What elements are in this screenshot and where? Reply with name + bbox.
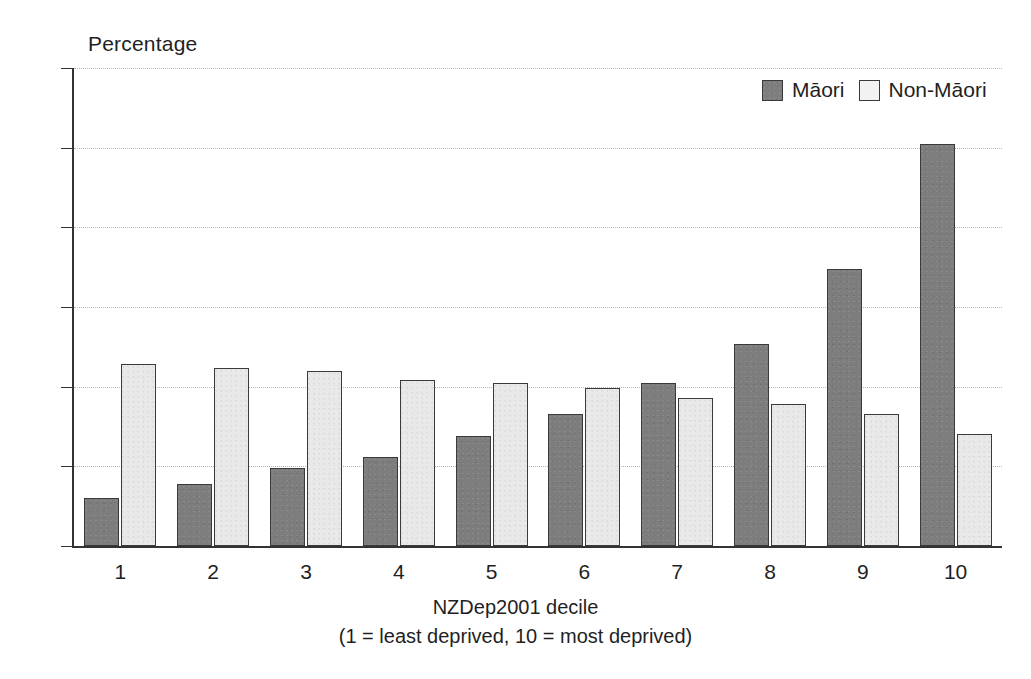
bar-group	[920, 68, 992, 546]
x-tick-label: 3	[266, 560, 346, 584]
bar-non-maori-decile-3	[307, 371, 342, 546]
plot-area	[72, 68, 1002, 548]
bar-maori-decile-2	[177, 484, 212, 546]
bars-layer	[74, 68, 1002, 546]
bar-non-maori-decile-6	[585, 388, 620, 546]
x-axis-title: NZDep2001 decile	[0, 596, 1031, 619]
bar-group	[270, 68, 342, 546]
bar-maori-decile-3	[270, 468, 305, 546]
bar-maori-decile-6	[548, 414, 583, 546]
bar-non-maori-decile-8	[771, 404, 806, 546]
x-tick-label: 4	[359, 560, 439, 584]
bar-group	[177, 68, 249, 546]
x-tick-label: 6	[544, 560, 624, 584]
bar-maori-decile-7	[641, 383, 676, 546]
y-tick-mark	[61, 387, 72, 388]
y-tick-mark	[61, 546, 72, 547]
bar-group	[456, 68, 528, 546]
bar-non-maori-decile-9	[864, 414, 899, 546]
chart-figure: Percentage Māori Non-Māori 051015202530 …	[0, 0, 1031, 679]
bar-non-maori-decile-1	[121, 364, 156, 546]
bar-group	[84, 68, 156, 546]
x-tick-label: 5	[452, 560, 532, 584]
x-tick-label: 7	[637, 560, 717, 584]
bar-group	[548, 68, 620, 546]
y-tick-mark	[61, 227, 72, 228]
y-tick-mark	[61, 148, 72, 149]
bar-non-maori-decile-7	[678, 398, 713, 546]
x-axis-subtitle: (1 = least deprived, 10 = most deprived)	[0, 625, 1031, 648]
y-axis-title: Percentage	[88, 32, 197, 56]
x-tick-label: 2	[173, 560, 253, 584]
gridline	[74, 546, 1002, 547]
bar-maori-decile-4	[363, 457, 398, 546]
bar-maori-decile-5	[456, 436, 491, 546]
bar-group	[734, 68, 806, 546]
y-tick-mark	[61, 466, 72, 467]
bar-non-maori-decile-2	[214, 368, 249, 546]
y-tick-mark	[61, 68, 72, 69]
bar-non-maori-decile-5	[493, 383, 528, 546]
y-tick-mark	[61, 307, 72, 308]
bar-maori-decile-8	[734, 344, 769, 546]
bar-group	[363, 68, 435, 546]
x-tick-label: 10	[916, 560, 996, 584]
bar-maori-decile-1	[84, 498, 119, 546]
x-tick-label: 1	[80, 560, 160, 584]
bar-group	[827, 68, 899, 546]
x-tick-label: 9	[823, 560, 903, 584]
bar-group	[641, 68, 713, 546]
bar-non-maori-decile-10	[957, 434, 992, 546]
bar-non-maori-decile-4	[400, 380, 435, 546]
bar-maori-decile-10	[920, 144, 955, 546]
bar-maori-decile-9	[827, 269, 862, 546]
x-tick-label: 8	[730, 560, 810, 584]
